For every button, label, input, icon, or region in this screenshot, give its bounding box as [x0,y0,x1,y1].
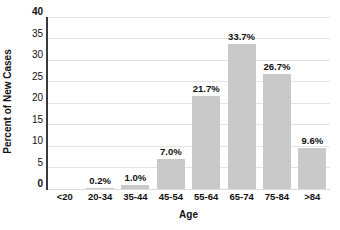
bar-35-44 [121,185,149,189]
bar-slot-35-44: 1.0% [118,17,153,189]
bar-20-34 [86,188,114,189]
bar-75-84 [263,74,291,189]
x-tick-label-65-74: 65-74 [224,191,259,202]
x-tick-label-20-34: 20-34 [82,191,117,202]
y-tick-label-25: 25 [0,70,43,81]
bar-slot-<20 [47,17,82,189]
bar-55-64 [192,96,220,189]
y-axis-ticks: 0510152025303540 [0,17,43,189]
x-tick-label-75-84: 75-84 [259,191,294,202]
y-tick-label-30: 30 [0,49,43,60]
x-axis-ticks: <2020-3435-4445-5455-6465-7475-84>84 [47,191,330,202]
bar-slot->84: 9.6% [295,17,330,189]
bar-slot-55-64: 21.7% [189,17,224,189]
bar-65-74 [228,44,256,189]
bar-value-label-55-64: 21.7% [193,83,220,94]
x-tick-label-<20: <20 [47,191,82,202]
y-tick-label-5: 5 [0,156,43,167]
bar-slot-75-84: 26.7% [259,17,294,189]
bar-value-label-35-44: 1.0% [125,172,147,183]
x-tick-label->84: >84 [295,191,330,202]
bar-value-label-45-54: 7.0% [160,146,182,157]
x-tick-label-35-44: 35-44 [118,191,153,202]
bar-slot-45-54: 7.0% [153,17,188,189]
bar-value-label-20-34: 0.2% [89,175,111,186]
y-tick-label-0: 0 [0,178,43,189]
y-tick-label-40: 40 [0,6,43,17]
x-axis-title: Age [47,209,330,220]
x-tick-label-45-54: 45-54 [153,191,188,202]
bar-slot-65-74: 33.7% [224,17,259,189]
bars-row: 0.2%1.0%7.0%21.7%33.7%26.7%9.6% [47,17,330,189]
bar-chart-figure: Percent of New Cases 0510152025303540 0.… [0,0,340,230]
bar-45-54 [157,159,185,189]
bar-value-label->84: 9.6% [301,135,323,146]
bar-value-label-75-84: 26.7% [263,61,290,72]
bar->84 [298,148,326,189]
bar-value-label-65-74: 33.7% [228,31,255,42]
x-tick-label-55-64: 55-64 [189,191,224,202]
y-tick-label-15: 15 [0,113,43,124]
y-tick-label-20: 20 [0,92,43,103]
y-tick-label-35: 35 [0,27,43,38]
y-tick-label-10: 10 [0,135,43,146]
bar-slot-20-34: 0.2% [82,17,117,189]
